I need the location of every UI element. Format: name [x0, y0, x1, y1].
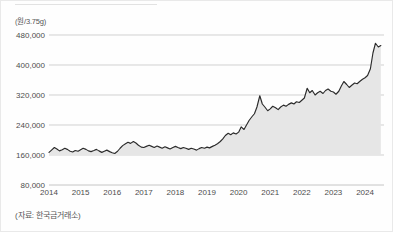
x-axis-tick-label: 2016	[103, 188, 121, 197]
x-axis-tick-label: 2014	[40, 188, 58, 197]
x-axis-tick-label: 2024	[356, 188, 374, 197]
y-axis-tick-label: 160,000	[1, 151, 45, 160]
y-axis-tick-label: 320,000	[1, 91, 45, 100]
x-axis-tick-label: 2019	[198, 188, 216, 197]
source-note: (자료: 한국금거래소)	[15, 209, 81, 220]
x-axis-tick-label: 2015	[72, 188, 90, 197]
line-chart-svg	[1, 1, 393, 232]
chart-figure: (원/3.75g) 480,000400,000320,000240,00016…	[0, 0, 393, 232]
y-axis-tick-label: 240,000	[1, 121, 45, 130]
area-fill-path	[49, 43, 381, 155]
x-axis-tick-label: 2017	[135, 188, 153, 197]
x-axis-tick-label: 2020	[230, 188, 248, 197]
y-axis-tick-label: 400,000	[1, 61, 45, 70]
y-axis-tick-label: 80,000	[1, 181, 45, 190]
plot-area: 480,000400,000320,000240,000160,00080,00…	[1, 1, 393, 232]
x-axis-tick-label: 2022	[293, 188, 311, 197]
y-axis-tick-label: 480,000	[1, 31, 45, 40]
x-axis-tick-label: 2021	[261, 188, 279, 197]
x-axis-tick-label: 2023	[325, 188, 343, 197]
x-axis-tick-label: 2018	[167, 188, 185, 197]
